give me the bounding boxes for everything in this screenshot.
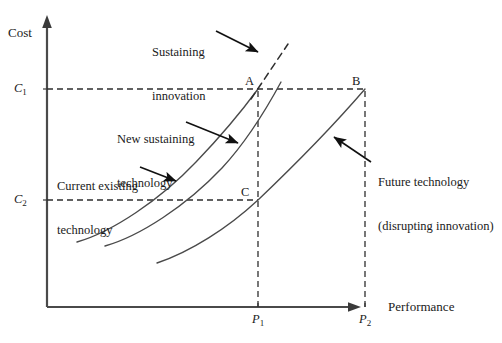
y-axis-label: Cost bbox=[8, 26, 32, 41]
annotation-sustaining-innovation-line2: innovation bbox=[152, 89, 205, 104]
x-axis-label: Performance bbox=[388, 300, 454, 315]
arrow-future-technology bbox=[334, 137, 371, 162]
point-label-a: A bbox=[245, 74, 254, 89]
annotation-future-technology-line2: (disrupting innovation) bbox=[378, 219, 494, 234]
annotation-future-technology-line1: Future technology bbox=[378, 175, 494, 190]
technology-s-curve-diagram: Cost Performance C1 C2 P1 P2 A B C Susta… bbox=[0, 0, 502, 343]
y-tick-label-c1: C1 bbox=[14, 81, 27, 100]
annotation-future-technology: Future technology (disrupting innovation… bbox=[378, 146, 494, 262]
point-label-c: C bbox=[241, 185, 249, 200]
annotation-current-existing-technology-line2: technology bbox=[57, 223, 138, 238]
annotation-sustaining-innovation-line1: Sustaining bbox=[152, 45, 205, 60]
x-tick-label-p2: P2 bbox=[359, 312, 371, 331]
annotation-new-sustaining-technology-line1: New sustaining bbox=[117, 132, 194, 147]
annotation-current-existing-technology-line1: Current existing bbox=[57, 179, 138, 194]
x-axis-arrowhead bbox=[348, 302, 361, 312]
y-tick-label-c2: C2 bbox=[14, 192, 27, 211]
point-label-b: B bbox=[352, 74, 360, 89]
annotation-current-existing-technology: Current existing technology bbox=[57, 150, 138, 266]
y-axis-arrowhead bbox=[42, 15, 52, 28]
arrow-sustaining-innovation bbox=[216, 31, 258, 52]
x-tick-label-p1: P1 bbox=[252, 312, 264, 331]
